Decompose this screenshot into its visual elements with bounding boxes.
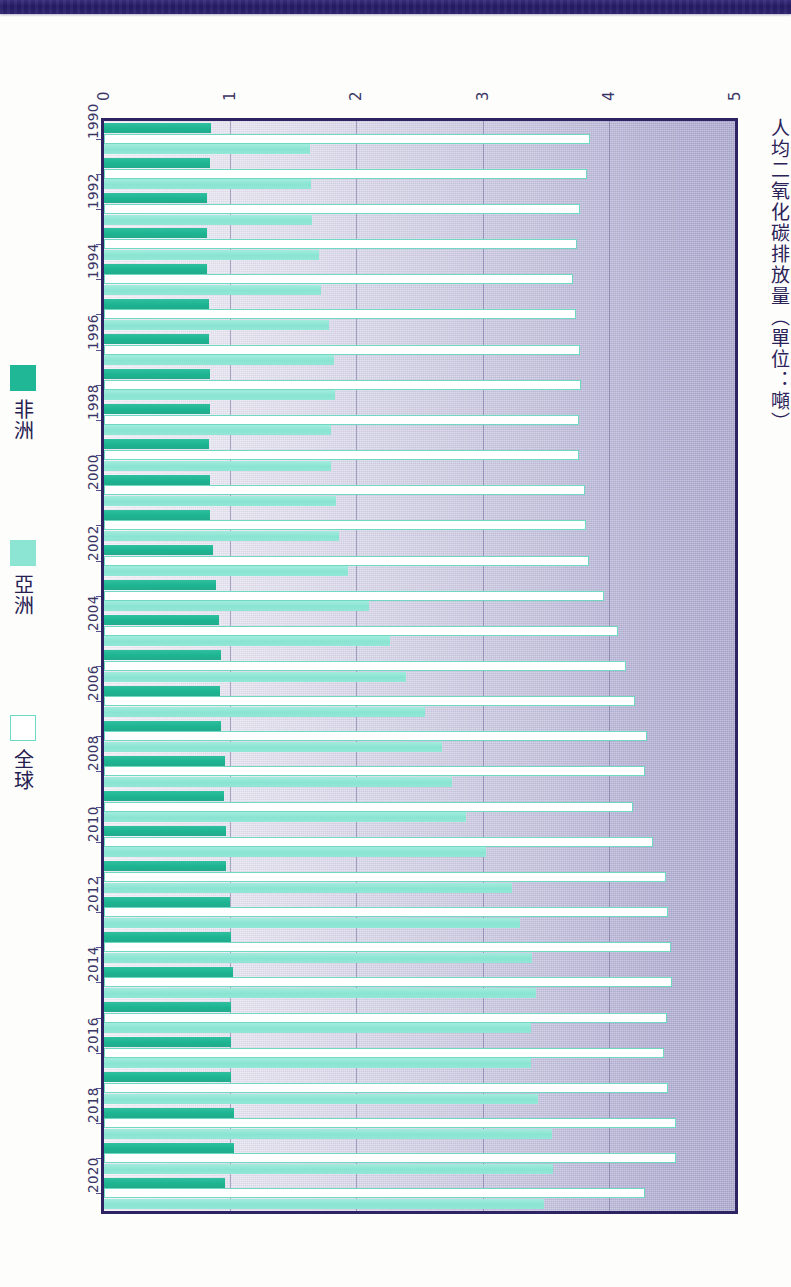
year-group xyxy=(104,473,735,508)
bar-africa-2014 xyxy=(104,967,233,977)
bar-global-2017 xyxy=(104,1083,668,1093)
bar-asia-1991 xyxy=(104,179,311,189)
bar-asia-2014 xyxy=(104,988,536,998)
bar-asia-2011 xyxy=(104,883,512,893)
bar-africa-1999 xyxy=(104,439,209,449)
value-tick-4: 4 xyxy=(600,87,618,101)
bar-global-2016 xyxy=(104,1048,664,1058)
bar-asia-2013 xyxy=(104,953,532,963)
axis-title: 人均二氧化碳排放量（單位：噸） xyxy=(748,118,788,433)
year-group xyxy=(104,226,735,261)
bar-africa-2010 xyxy=(104,826,226,836)
bar-global-2003 xyxy=(104,591,604,601)
bar-global-2012 xyxy=(104,907,668,917)
chart-figure: 非洲亞洲全球 012345 19901992199419961998200020… xyxy=(0,0,791,1287)
legend-swatch-global-icon xyxy=(10,715,36,741)
bar-global-2007 xyxy=(104,731,647,741)
bar-global-2008 xyxy=(104,766,645,776)
bar-global-1991 xyxy=(104,169,587,179)
bar-global-1995 xyxy=(104,309,576,319)
bar-asia-2007 xyxy=(104,742,442,752)
bar-global-1999 xyxy=(104,450,579,460)
bar-africa-1993 xyxy=(104,228,207,238)
bar-global-1997 xyxy=(104,380,581,390)
year-group xyxy=(104,684,735,719)
bar-global-2004 xyxy=(104,626,618,636)
bar-global-2018 xyxy=(104,1118,676,1128)
year-group xyxy=(104,1035,735,1070)
bar-global-2011 xyxy=(104,872,666,882)
bar-africa-1995 xyxy=(104,299,209,309)
bar-global-2005 xyxy=(104,661,626,671)
bar-global-2006 xyxy=(104,696,635,706)
year-group xyxy=(104,578,735,613)
bar-asia-1998 xyxy=(104,425,331,435)
bar-africa-2002 xyxy=(104,545,213,555)
year-group xyxy=(104,297,735,332)
bar-asia-1993 xyxy=(104,250,319,260)
bar-africa-2013 xyxy=(104,932,231,942)
legend-label-asia: 亞洲 xyxy=(8,574,37,616)
bar-asia-2001 xyxy=(104,531,339,541)
bar-global-2010 xyxy=(104,837,653,847)
bar-africa-2003 xyxy=(104,580,216,590)
bar-africa-2017 xyxy=(104,1072,231,1082)
bar-asia-2000 xyxy=(104,496,336,506)
bar-asia-1996 xyxy=(104,355,334,365)
year-group xyxy=(104,859,735,894)
bar-africa-2018 xyxy=(104,1108,234,1118)
bar-africa-1992 xyxy=(104,193,207,203)
bar-asia-2020 xyxy=(104,1199,544,1209)
bar-asia-2016 xyxy=(104,1058,531,1068)
bar-global-1996 xyxy=(104,345,580,355)
bar-asia-2009 xyxy=(104,812,466,822)
bar-asia-2010 xyxy=(104,847,486,857)
bar-asia-2005 xyxy=(104,672,406,682)
year-group xyxy=(104,402,735,437)
year-group xyxy=(104,543,735,578)
bar-asia-1994 xyxy=(104,285,321,295)
bar-africa-2005 xyxy=(104,650,221,660)
year-group xyxy=(104,965,735,1000)
bar-global-2019 xyxy=(104,1153,676,1163)
bar-global-1990 xyxy=(104,134,590,144)
bar-africa-1994 xyxy=(104,264,207,274)
value-tick-3: 3 xyxy=(474,87,492,101)
bar-asia-2018 xyxy=(104,1129,552,1139)
value-tick-0: 0 xyxy=(95,87,113,101)
bar-asia-2012 xyxy=(104,918,520,928)
bar-global-2014 xyxy=(104,977,672,987)
bar-global-2013 xyxy=(104,942,671,952)
bar-global-2020 xyxy=(104,1188,645,1198)
gridline-5 xyxy=(735,121,736,1211)
bar-asia-2002 xyxy=(104,566,348,576)
bar-asia-1992 xyxy=(104,215,312,225)
bar-asia-2008 xyxy=(104,777,452,787)
legend-swatch-asia-icon xyxy=(10,540,36,566)
year-group xyxy=(104,789,735,824)
bar-asia-2004 xyxy=(104,636,390,646)
year-group xyxy=(104,613,735,648)
bar-global-2000 xyxy=(104,485,585,495)
year-group xyxy=(104,1176,735,1211)
bar-africa-2019 xyxy=(104,1143,234,1153)
bar-africa-2012 xyxy=(104,897,230,907)
bar-asia-2006 xyxy=(104,707,425,717)
value-tick-2: 2 xyxy=(347,87,365,101)
value-tick-5: 5 xyxy=(726,87,744,101)
bar-asia-2003 xyxy=(104,601,369,611)
year-group xyxy=(104,121,735,156)
bar-africa-2006 xyxy=(104,686,220,696)
year-group xyxy=(104,648,735,683)
bar-africa-2004 xyxy=(104,615,219,625)
year-group xyxy=(104,508,735,543)
bar-africa-1991 xyxy=(104,158,210,168)
bar-africa-1990 xyxy=(104,123,211,133)
bar-global-2015 xyxy=(104,1013,667,1023)
year-group xyxy=(104,191,735,226)
bar-global-1994 xyxy=(104,274,573,284)
bar-africa-1997 xyxy=(104,369,210,379)
year-group xyxy=(104,1141,735,1176)
bar-africa-2016 xyxy=(104,1037,231,1047)
plot-area xyxy=(101,118,738,1214)
